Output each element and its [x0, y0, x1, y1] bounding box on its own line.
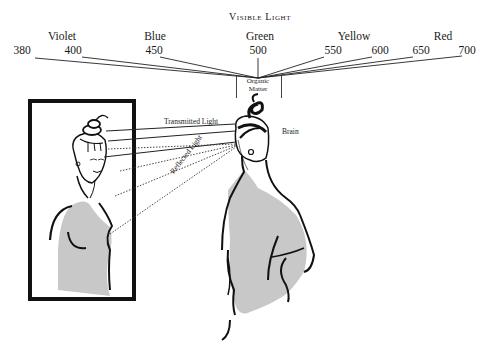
color-label-yellow: Yellow	[338, 30, 371, 42]
wavelength-700: 700	[458, 44, 475, 56]
wavelength-450: 450	[145, 44, 162, 56]
spectrum-lines	[35, 56, 462, 78]
color-label-violet: Violet	[48, 30, 76, 42]
wavelength-550: 550	[324, 44, 341, 56]
transmitted-light-label: Transmitted Light	[164, 117, 218, 126]
brain-label: Brain	[282, 127, 299, 136]
organic-matter-label: Organic Matter	[236, 77, 280, 93]
diagram-title: Visible Light	[229, 11, 291, 22]
color-label-green: Green	[246, 30, 274, 42]
framed-woman-figure	[50, 115, 112, 296]
wavelength-500: 500	[249, 44, 266, 56]
color-label-blue: Blue	[144, 30, 166, 42]
color-label-red: Red	[434, 30, 453, 42]
viewer-woman-figure	[222, 94, 314, 340]
wavelength-600: 600	[371, 44, 388, 56]
transmitted-light-lines	[104, 124, 236, 157]
wavelength-400: 400	[64, 44, 81, 56]
wavelength-380: 380	[13, 44, 30, 56]
organic-matter-line1: Organic	[236, 77, 280, 85]
organic-matter-line2: Matter	[236, 85, 280, 93]
wavelength-650: 650	[412, 44, 429, 56]
reflected-light-lines	[108, 144, 236, 234]
